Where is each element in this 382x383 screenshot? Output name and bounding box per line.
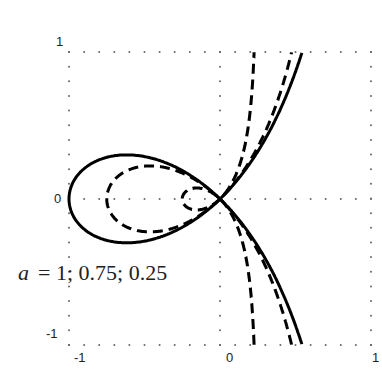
ytick-1: 1 xyxy=(56,34,63,49)
xtick-neg1: -1 xyxy=(74,350,86,365)
annotation-values: = 1; 0.75; 0.25 xyxy=(38,260,167,285)
annotation-variable: a xyxy=(18,260,29,285)
ytick-0: 0 xyxy=(54,191,61,206)
curve-1 xyxy=(69,53,302,344)
xtick-0: 0 xyxy=(226,350,233,365)
strophoid-chart: 1 0 -1 -1 0 1 a = 1; 0.75; 0.25 xyxy=(0,0,382,383)
xtick-1: 1 xyxy=(372,350,379,365)
annotation: a = 1; 0.75; 0.25 xyxy=(18,260,167,285)
ytick-neg1: -1 xyxy=(46,326,58,341)
curve-0_75 xyxy=(107,52,292,344)
curves xyxy=(69,52,302,345)
tick-labels: 1 0 -1 -1 0 1 xyxy=(46,34,379,365)
